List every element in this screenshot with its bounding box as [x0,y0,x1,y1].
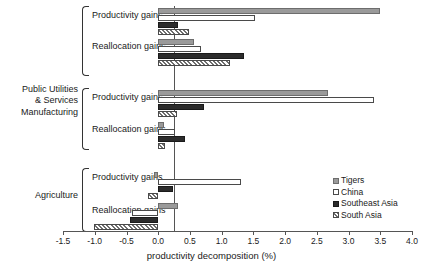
x-tick-5 [222,231,223,235]
bar-0-tigers [158,8,380,14]
legend-item-south-asia[interactable]: South Asia [333,210,398,222]
bar-5-china [132,210,159,216]
bar-5-southeast-asia [130,217,159,223]
bar-3-south-asia [158,143,165,149]
bar-5-south-asia [94,224,159,230]
legend-label-china: China [341,187,363,199]
x-tick-9 [349,231,350,235]
legend-swatch-southeast-asia-icon [333,201,339,207]
legend-item-southeast-asia[interactable]: Southeast Asia [333,198,398,210]
x-tick-label-8: 2.5 [311,236,323,246]
legend-swatch-south-asia-icon [333,212,339,218]
x-axis-label: productivity decomposition (%) [0,250,423,261]
x-tick-label-7: 2.0 [279,236,291,246]
x-tick-label-3: 0.0 [152,236,164,246]
bar-4-southeast-asia [158,186,173,192]
legend-swatch-tigers-icon [333,178,339,184]
bar-3-southeast-asia [158,136,185,142]
x-tick-label-1: -1.0 [87,236,102,246]
bar-1-south-asia [158,60,230,66]
bar-4-south-asia [148,193,158,199]
bar-3-china [158,129,175,135]
bar-2-southeast-asia [158,104,204,110]
x-tick-label-10: 3.5 [374,236,386,246]
x-tick-label-2: -0.5 [119,236,134,246]
bar-0-southeast-asia [158,22,178,28]
x-tick-label-0: -1.5 [56,236,71,246]
x-tick-1 [95,231,96,235]
bar-1-china [158,46,201,52]
legend-label-southeast-asia: Southeast Asia [341,198,398,210]
x-tick-label-11: 4.0 [406,236,418,246]
legend: Tigers China Southeast Asia South Asia [333,175,398,221]
bar-4-tigers [154,172,158,178]
x-tick-label-9: 3.0 [343,236,355,246]
bar-3-tigers [158,122,164,128]
bar-1-tigers [158,39,194,45]
x-tick-10 [380,231,381,235]
x-tick-4 [190,231,191,235]
bar-0-south-asia [158,29,189,35]
x-tick-label-4: 0.5 [184,236,196,246]
legend-item-tigers[interactable]: Tigers [333,175,398,187]
x-tick-0 [63,231,64,235]
x-tick-label-6: 1.5 [247,236,259,246]
bar-2-south-asia [158,111,177,117]
bar-2-tigers [158,90,328,96]
bar-2-china [158,97,374,103]
x-tick-6 [253,231,254,235]
legend-item-china[interactable]: China [333,187,398,199]
legend-label-tigers: Tigers [341,175,364,187]
x-tick-2 [127,231,128,235]
x-tick-11 [412,231,413,235]
legend-label-south-asia: South Asia [341,210,382,222]
bar-4-china [158,179,241,185]
x-tick-8 [317,231,318,235]
bar-0-china [158,15,255,21]
chart-root: Public Utilities & Services Productivity… [0,0,423,267]
bar-1-southeast-asia [158,53,244,59]
legend-swatch-china-icon [333,189,339,195]
x-axis-line [63,231,412,232]
bar-5-tigers [158,203,178,209]
x-tick-7 [285,231,286,235]
x-tick-label-5: 1.0 [216,236,228,246]
x-tick-3 [158,231,159,235]
